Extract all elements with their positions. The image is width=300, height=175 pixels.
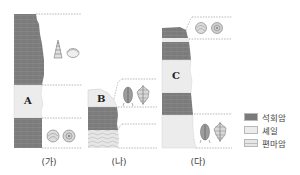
rock-type-legend: 석회암 셰일 편마암 xyxy=(244,110,300,149)
layer-label-b: B xyxy=(97,93,105,104)
column-da xyxy=(162,17,232,148)
caption-ga: (가) xyxy=(34,155,64,168)
bivalve-fossil-icon xyxy=(67,49,79,58)
ammonite-fossil-icon xyxy=(196,23,207,34)
legend-item-shale: 셰일 xyxy=(244,123,300,136)
ammonite-fossil-icon xyxy=(63,130,75,142)
graptolite-fossil-icon xyxy=(214,122,226,142)
stratigraphic-columns-figure: A B C (가) (나) (다) 석회암 셰일 편마암 xyxy=(0,0,300,175)
shale-swatch-icon xyxy=(244,126,258,134)
legend-label-shale: 셰일 xyxy=(262,124,278,136)
layer-label-a: A xyxy=(24,95,32,106)
gastropod-fossil-icon xyxy=(54,40,62,58)
legend-item-limestone: 석회암 xyxy=(244,110,300,123)
legend-label-sandstone: 편마암 xyxy=(262,137,286,149)
limestone-swatch-icon xyxy=(244,113,258,121)
graptolite-fossil-icon xyxy=(137,85,149,105)
ammonite-fossil-icon xyxy=(212,23,223,34)
caption-na: (나) xyxy=(104,155,134,168)
trilobite-fossil-icon xyxy=(200,124,210,143)
sandstone-swatch-icon xyxy=(244,139,258,147)
column-ga xyxy=(14,14,82,148)
ammonite-fossil-icon xyxy=(47,130,59,142)
layer-label-c: C xyxy=(172,70,180,81)
column-na xyxy=(88,79,157,148)
legend-label-limestone: 석회암 xyxy=(262,111,286,123)
legend-item-sandstone: 편마암 xyxy=(244,136,300,149)
trilobite-fossil-icon xyxy=(123,87,133,106)
caption-da: (다) xyxy=(183,155,213,168)
